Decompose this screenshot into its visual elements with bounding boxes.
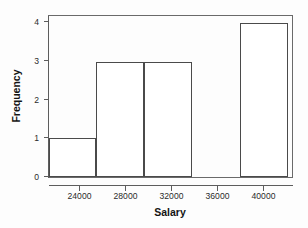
y-axis-ticks: 0 1 2 3 4	[34, 17, 48, 182]
histogram-bar	[49, 139, 96, 176]
histogram-bar	[145, 62, 192, 176]
x-tick-label-0: 24000	[68, 191, 92, 201]
histogram-bars	[49, 24, 287, 176]
y-tick-label-2: 2	[34, 95, 39, 105]
x-axis-title: Salary	[154, 206, 186, 218]
histogram-bar	[240, 24, 287, 176]
x-tick-label-1: 28000	[114, 191, 138, 201]
x-tick-label-4: 40000	[252, 191, 276, 201]
y-tick-label-3: 3	[34, 56, 39, 66]
x-tick-label-3: 36000	[206, 191, 230, 201]
x-tick-label-2: 32000	[160, 191, 184, 201]
y-axis-title: Frequency	[10, 69, 22, 122]
histogram-bar	[97, 62, 144, 176]
plot-svg: 0 1 2 3 4 24000 28000 32000 36000 40000	[0, 0, 308, 228]
y-tick-label-0: 0	[34, 172, 39, 182]
y-tick-label-4: 4	[34, 17, 39, 27]
x-axis-ticks: 24000 28000 32000 36000 40000	[68, 186, 276, 202]
histogram-chart: 0 1 2 3 4 24000 28000 32000 36000 40000	[0, 0, 308, 228]
y-tick-label-1: 1	[34, 133, 39, 143]
